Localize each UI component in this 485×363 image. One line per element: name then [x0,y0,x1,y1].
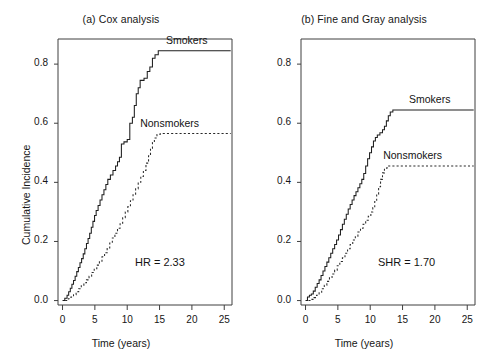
panel-a-x-axis-title: Time (years) [0,337,242,349]
panel-b-subdistribution-hazard-ratio-annotation: SHR = 1.70 [378,256,435,268]
x-tick-label: 10 [117,314,137,325]
x-tick-label: 5 [85,314,105,325]
x-tick-label: 15 [150,314,170,325]
x-tick-label: 15 [393,314,413,325]
x-tick-label: 20 [182,314,202,325]
y-tick-label: 0.6 [265,116,291,127]
x-tick-label: 25 [214,314,234,325]
y-tick-label: 0.6 [22,116,48,127]
x-tick-label: 0 [296,314,316,325]
y-tick-label: 0.0 [265,294,291,305]
y-tick-label: 0.0 [22,294,48,305]
y-tick-label: 0.4 [265,175,291,186]
y-tick-label: 0.8 [265,57,291,68]
panel-fine-and-gray-analysis: (b) Fine and Gray analysis Time (years) … [243,0,485,363]
y-tick-label: 0.2 [22,234,48,245]
panel-cox-analysis: (a) Cox analysis Time (years) Cumulative… [0,0,242,363]
curve-nonsmokers [65,134,231,301]
curve-smokers [306,110,474,301]
figure-two-panel-cumulative-incidence: (a) Cox analysis Time (years) Cumulative… [0,0,485,363]
x-tick-label: 20 [425,314,445,325]
panel-b-x-axis-title: Time (years) [243,337,485,349]
x-tick-label: 5 [328,314,348,325]
x-tick-label: 10 [360,314,380,325]
panel-b-nonsmokers-label: Nonsmokers [383,149,442,161]
x-tick-label: 0 [53,314,73,325]
curve-nonsmokers [308,166,473,300]
panel-a-y-axis-title: Cumulative Incidence [20,145,32,245]
x-tick-label: 25 [457,314,477,325]
y-tick-label: 0.4 [22,175,48,186]
y-tick-label: 0.2 [265,234,291,245]
panel-a-hazard-ratio-annotation: HR = 2.33 [135,256,185,268]
panel-b-smokers-label: Smokers [409,93,450,105]
y-tick-label: 0.8 [22,57,48,68]
panel-a-nonsmokers-label: Nonsmokers [140,117,199,129]
panel-a-smokers-label: Smokers [166,34,207,46]
